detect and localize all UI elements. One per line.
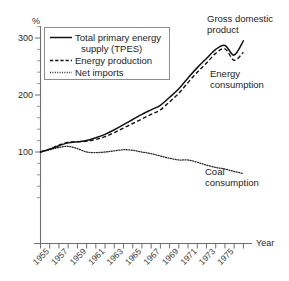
annotation-coal-line2: consumption [205, 177, 259, 188]
annotation-gdp-line1: Gross domestic [207, 13, 273, 24]
chart-plot-area: 100200300 195519571959196119631965196719… [0, 0, 289, 281]
x-tick-label-1967: 1967 [141, 246, 162, 267]
x-tick-label-1971: 1971 [178, 246, 199, 267]
x-tick-label-1961: 1961 [86, 246, 107, 267]
energy-indices-line-chart: 100200300 195519571959196119631965196719… [0, 0, 289, 281]
y-axis-unit-label: % [32, 16, 40, 26]
annotation-energy-line2: consumption [210, 79, 264, 90]
x-tick-label-1959: 1959 [68, 246, 89, 267]
x-tick-label-1963: 1963 [104, 246, 125, 267]
annotation-gross-domestic-product: Gross domestic product [207, 13, 273, 35]
annotation-energy-consumption: Energy consumption [210, 68, 264, 90]
legend-label-energy-production: Energy production [75, 55, 152, 66]
x-axis-tick-labels: 1955195719591961196319651967196919711973… [31, 246, 236, 267]
annotation-energy-line1: Energy [210, 68, 240, 79]
x-axis-title: Year [256, 238, 274, 248]
y-tick-label-100: 100 [18, 147, 33, 157]
annotation-coal-line1: Coal [205, 166, 225, 177]
y-axis-tick-labels: 100200300 [18, 33, 33, 157]
x-tick-label-1955: 1955 [31, 246, 52, 267]
y-axis-major-ticks [35, 38, 41, 152]
x-tick-label-1957: 1957 [49, 246, 70, 267]
x-tick-label-1965: 1965 [123, 246, 144, 267]
y-tick-label-200: 200 [18, 90, 33, 100]
legend-label-tpes-line1: Total primary energy [75, 32, 161, 43]
chart-legend: Total primary energy supply (TPES) Energ… [45, 28, 170, 80]
annotation-gdp-line2: product [207, 24, 239, 35]
x-tick-label-1975: 1975 [215, 246, 236, 267]
y-tick-label-300: 300 [18, 33, 33, 43]
x-axis-ticks [41, 244, 244, 249]
legend-label-net-imports: Net imports [75, 67, 124, 78]
x-tick-label-1969: 1969 [160, 246, 181, 267]
annotation-coal-consumption: Coal consumption [205, 166, 259, 188]
x-tick-label-1973: 1973 [197, 246, 218, 267]
legend-label-tpes-line2: supply (TPES) [81, 43, 142, 54]
